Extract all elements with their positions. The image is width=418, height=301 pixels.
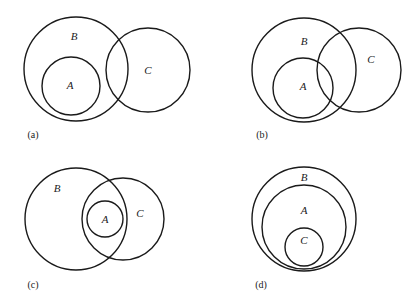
circle-a bbox=[262, 185, 346, 269]
panel-d: B A C (d) bbox=[252, 167, 356, 291]
panel-caption: (b) bbox=[256, 129, 268, 141]
panel-b: B A C (b) bbox=[252, 18, 401, 141]
panel-caption: (c) bbox=[27, 279, 38, 291]
circle-b bbox=[252, 167, 356, 271]
label-c: C bbox=[300, 234, 308, 246]
label-c: C bbox=[136, 207, 144, 219]
circle-b bbox=[25, 168, 127, 270]
label-b: B bbox=[54, 182, 61, 194]
label-a: A bbox=[101, 213, 109, 225]
venn-diagram-figure: B A C (a) B A C (b) B C A (c) B A C (d) bbox=[0, 0, 418, 301]
circle-c bbox=[317, 28, 401, 112]
label-a: A bbox=[66, 79, 74, 91]
panel-caption: (a) bbox=[27, 129, 38, 141]
label-c: C bbox=[144, 64, 152, 76]
label-a: A bbox=[299, 80, 307, 92]
label-b: B bbox=[301, 35, 308, 47]
panel-caption: (d) bbox=[255, 279, 267, 291]
label-a: A bbox=[300, 204, 308, 216]
label-c: C bbox=[367, 53, 375, 65]
label-b: B bbox=[71, 30, 78, 42]
panel-a: B A C (a) bbox=[24, 17, 190, 141]
label-b: B bbox=[301, 171, 308, 183]
panel-c: B C A (c) bbox=[25, 168, 164, 291]
